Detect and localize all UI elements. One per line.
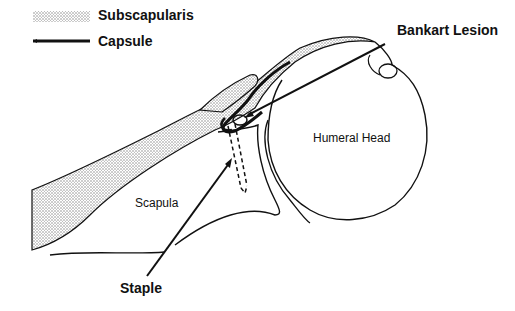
staple-graphic (228, 124, 247, 193)
legend-subscapularis-label: Subscapularis (98, 7, 194, 23)
anatomy-drawing (0, 0, 515, 311)
bankart-lesion-label: Bankart Lesion (397, 22, 498, 38)
humeral-head-label: Humeral Head (313, 131, 390, 145)
tubercle (379, 64, 397, 78)
staple-label: Staple (120, 280, 162, 296)
subscapularis-swatch (33, 11, 90, 22)
legend-capsule-label: Capsule (98, 33, 152, 49)
shoulder-diagram: Subscapularis Capsule Bankart Lesion Hum… (0, 0, 515, 311)
scapula-label: Scapula (135, 196, 178, 210)
